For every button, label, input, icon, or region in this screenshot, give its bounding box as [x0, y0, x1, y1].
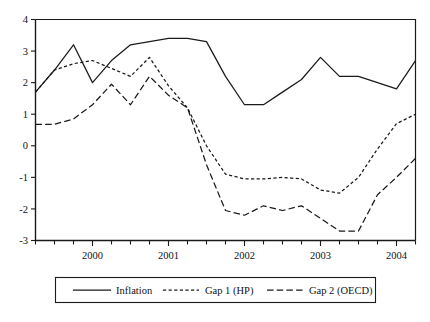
y-tick-label: 4 [23, 14, 29, 25]
series-line-2 [36, 76, 416, 231]
y-tick-label: 0 [23, 140, 28, 151]
y-tick-label: 3 [23, 46, 28, 57]
chart-legend: InflationGap 1 (HP)Gap 2 (OECD) [56, 278, 376, 303]
x-tick-label: 2003 [310, 250, 331, 261]
series-line-0 [36, 38, 416, 104]
x-tick-label: 2004 [386, 250, 408, 261]
legend-label-2: Gap 2 (OECD) [309, 285, 373, 297]
y-tick-label: 1 [23, 109, 28, 120]
y-axis-ticks: 43210-1-2-3 [19, 14, 35, 246]
line-chart: 43210-1-2-3 20002001200220032004 Inflati… [0, 0, 430, 322]
data-series-group [36, 38, 416, 231]
legend-label-1: Gap 1 (HP) [205, 285, 254, 297]
x-tick-label: 2001 [158, 250, 179, 261]
plot-frame-top-right [36, 20, 416, 241]
y-tick-label: 2 [23, 77, 28, 88]
legend-label-0: Inflation [116, 285, 153, 296]
y-tick-label: -2 [19, 204, 28, 215]
y-tick-label: -3 [19, 235, 28, 246]
x-axis-ticks: 20002001200220032004 [36, 241, 416, 261]
y-tick-label: -1 [19, 172, 28, 183]
plot-axis-left-bottom [36, 20, 416, 241]
chart-figure: 43210-1-2-3 20002001200220032004 Inflati… [0, 0, 430, 322]
series-line-1 [36, 57, 416, 193]
x-tick-label: 2000 [82, 250, 103, 261]
x-tick-label: 2002 [234, 250, 255, 261]
plot-frame [36, 20, 416, 241]
